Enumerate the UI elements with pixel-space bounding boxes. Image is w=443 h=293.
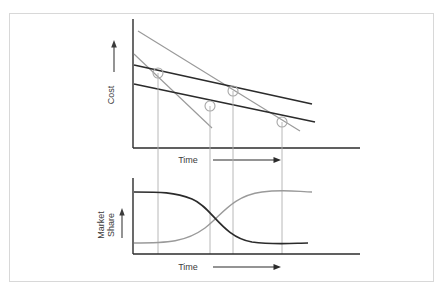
cost-line-dark-shallow-lower <box>134 84 315 122</box>
cost-x-axis-arrow-icon <box>213 157 281 163</box>
market-share-panel: Market Share Time <box>96 178 360 272</box>
share-y-axis-arrow-icon <box>119 208 124 238</box>
cost-x-axis-label: Time <box>178 155 198 165</box>
share-y-axis-label-line1: Market <box>96 211 106 239</box>
cost-y-axis-arrow-icon <box>111 40 117 72</box>
cost-y-axis-label: Cost <box>106 85 116 104</box>
cost-line-dark-shallow-upper <box>134 65 312 104</box>
figure-root: Cost Time <box>0 0 443 293</box>
concept-diagram-cost-and-market-share: Cost Time <box>0 0 443 293</box>
share-curve-rising <box>134 191 312 243</box>
cost-line-grey-steep-lower <box>134 54 212 128</box>
share-y-axis-label-line2: Share <box>106 213 116 237</box>
share-x-axis-arrow-icon <box>213 264 281 270</box>
crossover-guide-lines <box>158 73 282 254</box>
share-x-axis-label: Time <box>178 262 198 272</box>
